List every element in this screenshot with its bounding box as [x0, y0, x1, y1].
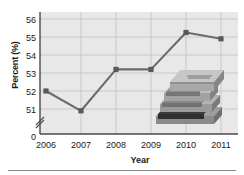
- book-top: [170, 70, 224, 91]
- data-point-2007: [78, 108, 83, 113]
- data-point-2011: [218, 36, 223, 41]
- stack-of-books-icon: [152, 62, 230, 132]
- line-chart-figure: Percent (%) 56 55 54 53 52 51 0 2006 200…: [0, 0, 244, 175]
- data-point-2010: [183, 30, 188, 35]
- data-point-2008: [113, 67, 118, 72]
- data-point-2006: [43, 88, 48, 93]
- bottom-divider: [8, 170, 236, 171]
